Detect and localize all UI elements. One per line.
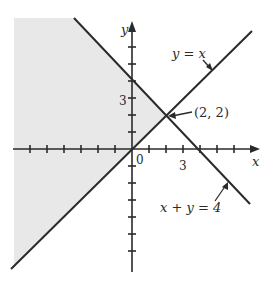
x-axis-label: x: [252, 154, 260, 169]
y-axis-label: y: [120, 22, 129, 37]
y-tick-label-3: 3: [119, 94, 127, 108]
x-axis-arrow-icon: [250, 145, 260, 153]
origin-label: 0: [136, 153, 144, 167]
shaded-region: [14, 18, 166, 267]
line-label-y-equals-x: y = x: [171, 46, 207, 61]
intersection-label: (2, 2): [194, 105, 229, 120]
y-axis-arrow-icon: [128, 21, 136, 32]
graph-figure: y x 0 3 3 y = x (2, 2) x + y = 4: [0, 0, 273, 281]
line-label-x-plus-y-equals-4: x + y = 4: [160, 200, 221, 215]
x-tick-label-3: 3: [179, 159, 187, 173]
